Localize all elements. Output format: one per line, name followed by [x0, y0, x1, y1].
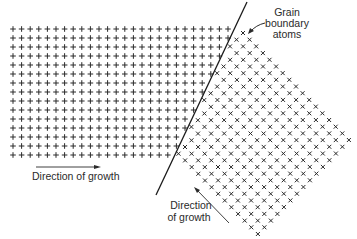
growth-label-right-line1: Direction — [170, 199, 212, 211]
grain-boundary-label: Grain boundary atoms — [265, 6, 310, 40]
grain-boundary-line — [156, 2, 247, 195]
growth-label-left: Direction of growth — [32, 170, 120, 182]
growth-label-right-line2: of growth — [167, 211, 210, 223]
grain-boundary-diagram: Grain boundary atoms Direction of growth… — [0, 0, 357, 239]
left-grain-plus-lattice — [10, 26, 231, 158]
growth-arrow-left-icon — [36, 165, 101, 169]
grain-boundary-label-line3: atoms — [273, 28, 302, 40]
grain-boundary-arrow-icon — [248, 23, 265, 34]
